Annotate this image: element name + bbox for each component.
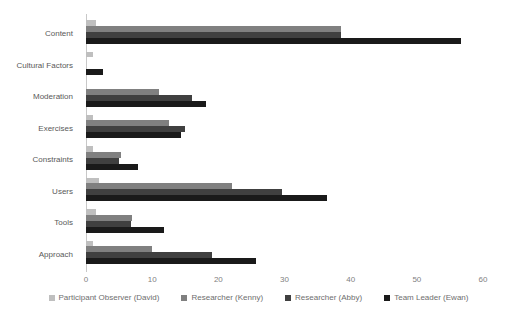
bar-stack: [86, 52, 483, 76]
bar[interactable]: [86, 95, 192, 101]
bar-group: [86, 50, 483, 82]
bar[interactable]: [86, 69, 103, 75]
category-label-users: Users: [0, 176, 80, 208]
bar-group: [86, 176, 483, 208]
bar[interactable]: [86, 89, 159, 95]
bar-group: [86, 18, 483, 50]
legend-item[interactable]: Participant Observer (David): [49, 293, 160, 302]
plot-area: [86, 18, 483, 270]
legend-label: Researcher (Abby): [295, 293, 362, 302]
category-label-content: Content: [0, 18, 80, 50]
chart-legend: Participant Observer (David)Researcher (…: [0, 293, 517, 302]
legend-item[interactable]: Team Leader (Ewan): [384, 293, 468, 302]
bar[interactable]: [86, 252, 212, 258]
bar-stack: [86, 209, 483, 233]
legend-swatch-icon: [384, 295, 390, 301]
bar[interactable]: [86, 183, 232, 189]
bar-stack: [86, 241, 483, 265]
bar[interactable]: [86, 195, 327, 201]
bar-group: [86, 113, 483, 145]
bar[interactable]: [86, 132, 181, 138]
legend-label: Team Leader (Ewan): [394, 293, 468, 302]
bar[interactable]: [86, 215, 132, 221]
bar-group: [86, 207, 483, 239]
bar[interactable]: [86, 120, 169, 126]
bar[interactable]: [86, 209, 96, 215]
legend-swatch-icon: [285, 295, 291, 301]
bar[interactable]: [86, 52, 93, 58]
category-label-text: Constraints: [33, 155, 80, 164]
category-label-text: Approach: [39, 250, 80, 259]
bar-stack: [86, 83, 483, 107]
bar[interactable]: [86, 221, 131, 227]
x-tick-label: 20: [214, 275, 223, 284]
category-label-approach: Approach: [0, 239, 80, 271]
category-label-moderation: Moderation: [0, 81, 80, 113]
legend-swatch-icon: [181, 295, 187, 301]
category-label-constraints: Constraints: [0, 144, 80, 176]
category-label-text: Moderation: [33, 92, 80, 101]
category-label-tools: Tools: [0, 207, 80, 239]
bar-stack: [86, 20, 483, 44]
bar-group: [86, 239, 483, 271]
category-axis-labels: ContentCultural FactorsModerationExercis…: [0, 18, 80, 270]
bar[interactable]: [86, 241, 93, 247]
bar[interactable]: [86, 115, 93, 121]
x-tick-label: 40: [346, 275, 355, 284]
bar-group: [86, 144, 483, 176]
x-tick-label: 0: [84, 275, 88, 284]
bar-stack: [86, 115, 483, 139]
legend-swatch-icon: [49, 295, 55, 301]
x-tick-label: 10: [148, 275, 157, 284]
legend-label: Researcher (Kenny): [191, 293, 263, 302]
category-label-text: Content: [45, 29, 80, 38]
bar[interactable]: [86, 227, 164, 233]
bar[interactable]: [86, 246, 152, 252]
bar[interactable]: [86, 258, 256, 264]
bar-chart: ContentCultural FactorsModerationExercis…: [0, 0, 517, 317]
bar-group: [86, 81, 483, 113]
category-label-text: Users: [52, 187, 80, 196]
legend-item[interactable]: Researcher (Abby): [285, 293, 362, 302]
bar[interactable]: [86, 38, 461, 44]
bar-stack: [86, 146, 483, 170]
bar[interactable]: [86, 146, 93, 152]
legend-item[interactable]: Researcher (Kenny): [181, 293, 263, 302]
bar[interactable]: [86, 189, 282, 195]
legend-label: Participant Observer (David): [59, 293, 160, 302]
bar[interactable]: [86, 152, 121, 158]
category-label-text: Exercises: [38, 124, 80, 133]
bar[interactable]: [86, 20, 96, 26]
bar-stack: [86, 178, 483, 202]
category-label-exercises: Exercises: [0, 113, 80, 145]
bar[interactable]: [86, 32, 341, 38]
bar[interactable]: [86, 178, 99, 184]
bar[interactable]: [86, 26, 341, 32]
value-axis-ticks: 0102030405060: [86, 275, 483, 289]
category-label-cultural-factors: Cultural Factors: [0, 50, 80, 82]
category-label-text: Tools: [54, 218, 80, 227]
bar[interactable]: [86, 101, 206, 107]
bar[interactable]: [86, 126, 185, 132]
x-tick-label: 30: [280, 275, 289, 284]
x-tick-label: 60: [479, 275, 488, 284]
bar[interactable]: [86, 158, 119, 164]
bar[interactable]: [86, 164, 138, 170]
x-tick-label: 50: [412, 275, 421, 284]
category-label-text: Cultural Factors: [17, 61, 80, 70]
